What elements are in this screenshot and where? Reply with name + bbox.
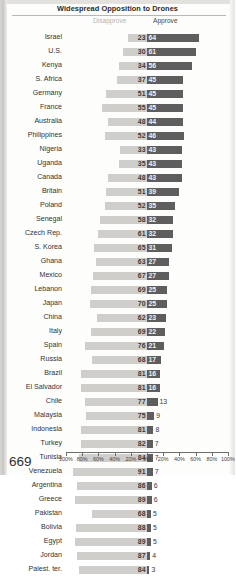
- value-disapprove: 69: [138, 328, 146, 336]
- chart-legend: Disapprove Approve: [0, 17, 235, 29]
- bar-approve: [147, 510, 151, 518]
- bar-approve: [147, 566, 149, 574]
- row-track: 866: [66, 480, 228, 491]
- chart-row: Venezuela917: [0, 465, 235, 479]
- value-disapprove: 34: [138, 62, 146, 70]
- row-track: 818: [66, 424, 228, 435]
- chart-row: Kenya3456: [0, 59, 235, 73]
- value-disapprove: 76: [138, 342, 146, 350]
- row-label: Spain: [0, 341, 62, 349]
- axis-tick: [115, 452, 116, 456]
- value-approve: 25: [149, 300, 157, 308]
- row-track: 7713: [66, 396, 228, 407]
- row-track: 4843: [66, 172, 228, 183]
- value-approve: 5: [153, 538, 157, 546]
- bar-approve: [147, 468, 153, 476]
- value-approve: 32: [149, 230, 157, 238]
- row-track: 6223: [66, 312, 228, 323]
- value-approve: 25: [149, 286, 157, 294]
- row-track: 8116: [66, 382, 228, 393]
- axis-tick-label: 80%: [206, 456, 217, 462]
- row-track: 874: [66, 550, 228, 561]
- row-track: 3745: [66, 74, 228, 85]
- chart-row: Indonesia818: [0, 423, 235, 437]
- chart-rows: Israel2364U.S.3061Kenya3456S. Africa3745…: [0, 31, 235, 577]
- axis-tick-label: 20%: [158, 456, 169, 462]
- chart-row: Australia4844: [0, 115, 235, 129]
- value-approve: 46: [149, 132, 157, 140]
- chart-row: Lebanon6925: [0, 283, 235, 297]
- row-label: Nigeria: [0, 145, 62, 153]
- value-disapprove: 77: [138, 398, 146, 406]
- row-label: Britain: [0, 187, 62, 195]
- chart-row: El Salvador8116: [0, 381, 235, 395]
- axis-tick: [196, 452, 197, 456]
- axis-tick: [131, 452, 132, 456]
- value-disapprove: 89: [138, 496, 146, 504]
- value-approve: 39: [149, 188, 157, 196]
- value-approve: 5: [153, 510, 157, 518]
- value-disapprove: 70: [138, 300, 146, 308]
- value-disapprove: 84: [138, 566, 146, 574]
- value-disapprove: 89: [138, 538, 146, 546]
- row-track: 3543: [66, 158, 228, 169]
- row-label: Argentina: [0, 481, 62, 489]
- chart-row: Italy6922: [0, 325, 235, 339]
- value-disapprove: 87: [138, 552, 146, 560]
- value-disapprove: 58: [138, 216, 146, 224]
- bar-disapprove: [77, 482, 147, 490]
- value-approve: 5: [153, 524, 157, 532]
- value-approve: 32: [149, 216, 157, 224]
- row-label: Uganda: [0, 159, 62, 167]
- row-track: 7025: [66, 298, 228, 309]
- value-disapprove: 33: [138, 146, 146, 154]
- value-disapprove: 55: [138, 104, 146, 112]
- chart-row: S. Korea6531: [0, 241, 235, 255]
- value-disapprove: 61: [138, 230, 146, 238]
- value-disapprove: 68: [138, 510, 146, 518]
- row-label: Egypt: [0, 537, 62, 545]
- row-label: S. Africa: [0, 75, 62, 83]
- row-label: Malaysia: [0, 411, 62, 419]
- row-track: 917: [66, 466, 228, 477]
- row-label: Brazil: [0, 369, 62, 377]
- chart-row: Poland5235: [0, 199, 235, 213]
- value-approve: 6: [154, 496, 158, 504]
- value-approve: 8: [155, 426, 159, 434]
- value-approve: 16: [149, 384, 157, 392]
- row-label: Jordan: [0, 551, 62, 559]
- axis-tick-label: 0%: [143, 456, 151, 462]
- value-approve: 9: [156, 412, 160, 420]
- value-approve: 45: [149, 104, 157, 112]
- value-approve: 56: [149, 62, 157, 70]
- value-disapprove: 82: [138, 440, 146, 448]
- value-disapprove: 75: [138, 412, 146, 420]
- bar-approve: [147, 398, 158, 406]
- axis-tick: [163, 452, 164, 456]
- value-approve: 43: [149, 174, 157, 182]
- bar-approve: [147, 552, 150, 560]
- row-label: Germany: [0, 89, 62, 97]
- row-track: 6922: [66, 326, 228, 337]
- row-label: S. Korea: [0, 243, 62, 251]
- value-disapprove: 30: [138, 48, 146, 56]
- chart-row: Russia6817: [0, 353, 235, 367]
- row-label: Israel: [0, 33, 62, 41]
- row-track: 895: [66, 536, 228, 547]
- value-approve: 16: [149, 370, 157, 378]
- value-approve: 7: [155, 468, 159, 476]
- value-disapprove: 88: [138, 524, 146, 532]
- value-disapprove: 52: [138, 202, 146, 210]
- row-label: France: [0, 103, 62, 111]
- bar-disapprove: [75, 496, 147, 504]
- row-track: 5545: [66, 102, 228, 113]
- value-disapprove: 35: [138, 160, 146, 168]
- row-track: 3061: [66, 46, 228, 57]
- value-disapprove: 65: [138, 244, 146, 252]
- chart-row: Turkey827: [0, 437, 235, 451]
- chart-row: Mexico6727: [0, 269, 235, 283]
- chart-row: Spain7621: [0, 339, 235, 353]
- chart-x-axis: 100%80%60%40%20%0%20%40%60%80%100%: [66, 452, 228, 464]
- chart-row: Germany5145: [0, 87, 235, 101]
- axis-tick-label: 60%: [93, 456, 104, 462]
